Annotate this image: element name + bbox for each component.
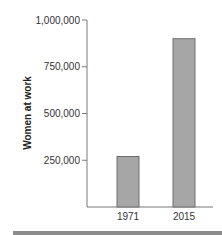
y-axis: 250,000500,000750,0001,000,000 (36, 15, 88, 208)
bar-1971 (117, 157, 139, 207)
bar-chart: 250,000500,000750,0001,000,000 19712015 … (0, 0, 222, 235)
bar-2015 (173, 39, 195, 207)
y-tick-label: 250,000 (44, 155, 81, 166)
footer-divider (13, 231, 222, 235)
bars (117, 39, 195, 207)
y-tick-label: 750,000 (44, 61, 81, 72)
x-axis: 19712015 (87, 207, 213, 222)
x-tick-label: 1971 (117, 211, 140, 222)
x-tick-label: 2015 (173, 211, 196, 222)
y-axis-label: Women at work (22, 76, 33, 150)
y-tick-label: 500,000 (44, 108, 81, 119)
y-tick-label: 1,000,000 (36, 15, 81, 26)
